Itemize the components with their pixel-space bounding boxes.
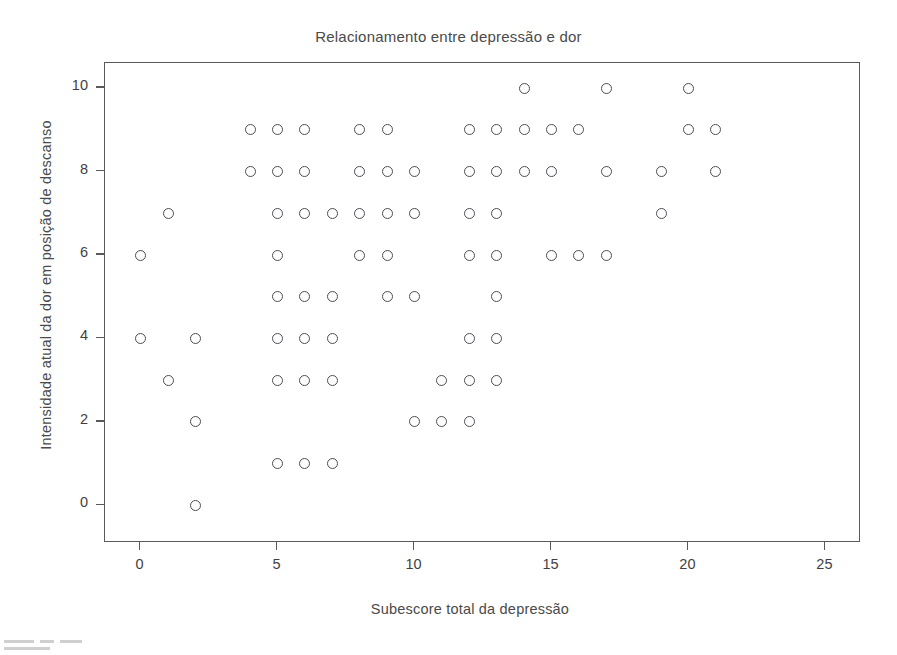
data-point [409, 291, 420, 302]
data-point [546, 250, 557, 261]
data-point [382, 124, 393, 135]
x-tick-mark [550, 542, 551, 550]
data-point [491, 375, 502, 386]
data-point [601, 166, 612, 177]
data-point [299, 375, 310, 386]
data-point [656, 208, 667, 219]
data-point [464, 124, 475, 135]
data-point [491, 208, 502, 219]
data-point [491, 124, 502, 135]
data-point [464, 375, 475, 386]
data-point [299, 166, 310, 177]
data-point [464, 208, 475, 219]
data-point [436, 416, 447, 427]
data-point [354, 124, 365, 135]
y-axis-label: Intensidade atual da dor em posição de d… [38, 50, 54, 520]
data-point [546, 124, 557, 135]
x-tick-mark [824, 542, 825, 550]
y-tick-label: 6 [48, 244, 88, 260]
data-point [464, 250, 475, 261]
data-point [272, 375, 283, 386]
x-tick-mark [413, 542, 414, 550]
data-point [573, 124, 584, 135]
data-point [491, 291, 502, 302]
data-point [491, 250, 502, 261]
data-point [573, 250, 584, 261]
data-point [272, 458, 283, 469]
data-point [601, 83, 612, 94]
x-axis-label: Subescore total da depressão [90, 601, 850, 617]
data-point [382, 291, 393, 302]
x-tick-label: 20 [667, 556, 707, 572]
data-point [464, 333, 475, 344]
data-point [519, 124, 530, 135]
data-point [464, 416, 475, 427]
data-point [327, 333, 338, 344]
x-tick-label: 25 [804, 556, 844, 572]
y-tick-label: 4 [48, 327, 88, 343]
data-point [272, 250, 283, 261]
y-tick-mark [96, 504, 104, 505]
data-point [299, 124, 310, 135]
x-tick-mark [687, 542, 688, 550]
data-point [299, 208, 310, 219]
data-point [272, 333, 283, 344]
page-edge-artifact [0, 636, 110, 655]
data-point [272, 291, 283, 302]
data-point [436, 375, 447, 386]
data-point [354, 250, 365, 261]
data-point [491, 333, 502, 344]
scatter-plot-figure: Relacionamento entre depressão e dor Int… [0, 0, 897, 655]
data-point [190, 333, 201, 344]
data-point [382, 166, 393, 177]
data-point [327, 208, 338, 219]
data-point [354, 208, 365, 219]
data-point [190, 416, 201, 427]
data-point [409, 166, 420, 177]
data-point [327, 375, 338, 386]
data-point [135, 250, 146, 261]
plot-area [104, 62, 860, 542]
data-point [327, 458, 338, 469]
x-tick-mark [139, 542, 140, 550]
data-point [491, 166, 502, 177]
data-point [354, 166, 365, 177]
data-point [272, 208, 283, 219]
data-point [299, 291, 310, 302]
data-point [299, 458, 310, 469]
data-point [272, 166, 283, 177]
data-point [656, 166, 667, 177]
data-point [272, 124, 283, 135]
data-point [683, 124, 694, 135]
data-point [519, 166, 530, 177]
y-tick-mark [96, 170, 104, 171]
data-point [546, 166, 557, 177]
x-tick-mark [276, 542, 277, 550]
data-point [163, 375, 174, 386]
y-tick-label: 10 [48, 77, 88, 93]
y-tick-label: 8 [48, 161, 88, 177]
y-tick-label: 2 [48, 411, 88, 427]
x-tick-label: 0 [120, 556, 160, 572]
data-point [382, 208, 393, 219]
data-point [464, 166, 475, 177]
data-point [409, 208, 420, 219]
data-point [163, 208, 174, 219]
data-point [327, 291, 338, 302]
data-point [683, 83, 694, 94]
data-point [190, 500, 201, 511]
data-point [135, 333, 146, 344]
y-tick-mark [96, 86, 104, 87]
y-tick-mark [96, 253, 104, 254]
y-tick-mark [96, 337, 104, 338]
chart-title: Relacionamento entre depressão e dor [0, 28, 897, 45]
data-point [710, 124, 721, 135]
data-point [519, 83, 530, 94]
x-tick-label: 5 [257, 556, 297, 572]
x-tick-label: 10 [394, 556, 434, 572]
data-point [601, 250, 612, 261]
data-point [409, 416, 420, 427]
y-tick-mark [96, 420, 104, 421]
y-tick-label: 0 [48, 494, 88, 510]
data-point [299, 333, 310, 344]
